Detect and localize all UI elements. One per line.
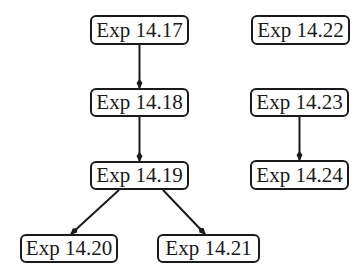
node-exp-14-24: Exp 14.24 [250, 160, 349, 190]
node-exp-14-23: Exp 14.23 [250, 88, 349, 117]
node-exp-14-17: Exp 14.17 [90, 15, 189, 45]
edge-1419-1420 [71, 190, 119, 234]
edge-1419-1421 [163, 190, 205, 234]
node-exp-14-22: Exp 14.22 [251, 15, 350, 45]
node-exp-14-18: Exp 14.18 [90, 88, 189, 117]
node-exp-14-21: Exp 14.21 [157, 234, 260, 263]
node-exp-14-20: Exp 14.20 [20, 234, 118, 263]
node-exp-14-19: Exp 14.19 [90, 161, 189, 190]
